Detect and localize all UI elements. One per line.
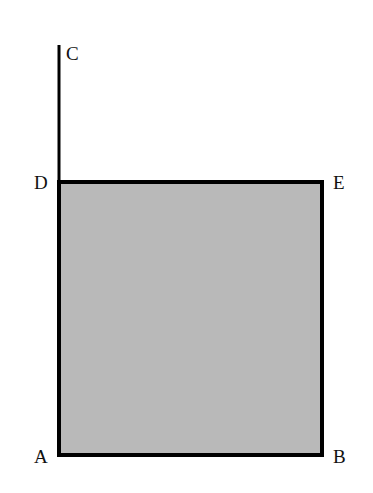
- geometry-diagram: C D E A B: [0, 0, 373, 493]
- shaded-square: [59, 182, 322, 455]
- label-b: B: [333, 446, 346, 467]
- label-e: E: [333, 172, 345, 193]
- label-a: A: [34, 446, 48, 467]
- label-c: C: [66, 43, 79, 64]
- label-d: D: [34, 172, 48, 193]
